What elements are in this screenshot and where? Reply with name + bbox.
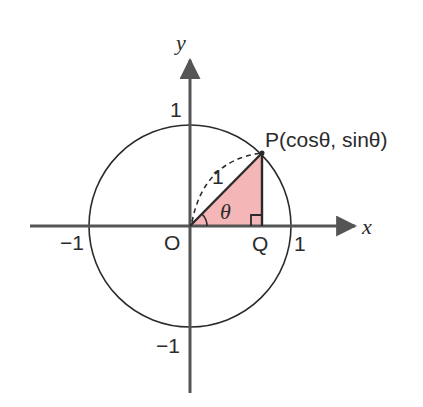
point-p-label: P(cosθ, sinθ) bbox=[265, 128, 388, 151]
origin-label: O bbox=[164, 231, 180, 254]
tick-x-neg: −1 bbox=[60, 231, 84, 254]
x-axis-label: x bbox=[361, 214, 372, 239]
angle-theta-label: θ bbox=[220, 199, 231, 224]
tick-y-pos: 1 bbox=[170, 98, 182, 121]
y-axis-label: y bbox=[174, 30, 186, 55]
hypotenuse-label: 1 bbox=[212, 165, 224, 188]
unit-circle-diagram: y x 1 −1 −1 1 O Q P(cosθ, sinθ) 1 θ bbox=[0, 0, 423, 407]
foot-q-label: Q bbox=[252, 232, 268, 255]
point-p bbox=[260, 151, 265, 156]
tick-y-neg: −1 bbox=[156, 334, 180, 357]
tick-x-pos: 1 bbox=[294, 232, 306, 255]
